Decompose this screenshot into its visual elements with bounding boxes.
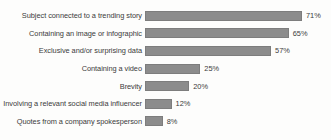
bar [145, 81, 189, 91]
value-label: 71% [302, 11, 321, 20]
category-label: Brevity [0, 82, 145, 91]
bar-area: 71% [145, 7, 331, 25]
chart-row: Exclusive and/or surprising data 57% [0, 42, 331, 60]
chart-row: Quotes from a company spokesperson 8% [0, 113, 331, 131]
bar [145, 11, 302, 21]
bar-area: 25% [145, 60, 331, 78]
chart-row: Subject connected to a trending story 71… [0, 7, 331, 25]
bar [145, 116, 163, 126]
bar-area: 8% [145, 113, 331, 131]
category-label: Involving a relevant social media influe… [0, 99, 145, 108]
value-label: 57% [271, 46, 290, 55]
bar [145, 46, 271, 56]
horizontal-bar-chart: Subject connected to a trending story 71… [0, 0, 331, 140]
bar [145, 99, 172, 109]
bar-area: 20% [145, 77, 331, 95]
value-label: 8% [163, 117, 178, 126]
bar-area: 57% [145, 42, 331, 60]
category-label: Subject connected to a trending story [0, 11, 145, 20]
category-label: Quotes from a company spokesperson [0, 117, 145, 126]
value-label: 20% [189, 82, 208, 91]
value-label: 25% [200, 64, 219, 73]
bar-area: 12% [145, 95, 331, 113]
category-label: Containing a video [0, 64, 145, 73]
bar-area: 65% [145, 25, 331, 43]
chart-row: Involving a relevant social media influe… [0, 95, 331, 113]
bar [145, 28, 289, 38]
category-label: Exclusive and/or surprising data [0, 46, 145, 55]
chart-row: Brevity 20% [0, 77, 331, 95]
category-label: Containing an image or infographic [0, 29, 145, 38]
value-label: 65% [289, 29, 308, 38]
bar [145, 64, 200, 74]
chart-row: Containing an image or infographic 65% [0, 25, 331, 43]
value-label: 12% [172, 99, 191, 108]
chart-row: Containing a video 25% [0, 60, 331, 78]
